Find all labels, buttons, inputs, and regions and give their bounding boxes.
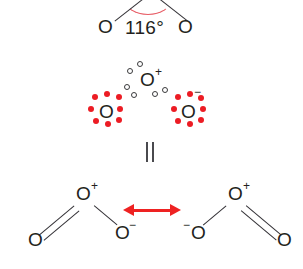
lone-pair-dot	[104, 91, 110, 97]
equivalence-bar	[146, 142, 148, 162]
geometry-left-oxygen: O	[98, 17, 113, 36]
resonance-structure-left: O + O O −	[0, 178, 145, 269]
bond-angle-structure: O 116° O	[0, 0, 303, 46]
lone-pair-dot	[187, 91, 193, 97]
right-structure-central-charge: +	[243, 180, 250, 192]
ozone-resonance-figure: O 116° O O + O O −	[0, 0, 303, 269]
geometry-right-oxygen: O	[178, 17, 193, 36]
lewis-dot-structure: O + O O −	[0, 58, 303, 136]
lone-pair-dot	[175, 118, 181, 124]
resonance-structure-right: O + O − O	[158, 178, 303, 269]
lone-pair-dot	[127, 68, 133, 74]
single-bond-line	[203, 205, 227, 225]
lone-pair-dot	[105, 121, 111, 127]
lone-pair-dot	[131, 92, 137, 98]
lone-pair-dot	[175, 94, 181, 100]
lone-pair-dot	[116, 94, 122, 100]
bond-angle-label: 116°	[125, 17, 164, 39]
equivalence-symbol	[143, 142, 159, 162]
lewis-right-oxygen: O	[181, 102, 196, 121]
left-structure-negative-charge: −	[129, 219, 136, 231]
right-structure-double-bond-oxygen: O	[277, 230, 292, 249]
lone-pair-dot	[117, 106, 123, 112]
lone-pair-dot	[124, 84, 130, 90]
lone-pair-dot	[200, 106, 206, 112]
left-structure-double-bond-oxygen: O	[28, 230, 43, 249]
lone-pair-dot	[92, 94, 98, 100]
left-structure-central-charge: +	[91, 180, 98, 192]
left-structure-central-oxygen: O	[76, 184, 91, 203]
lewis-left-oxygen: O	[99, 102, 114, 121]
lewis-central-oxygen: O	[140, 70, 155, 89]
lone-pair-dot	[162, 87, 168, 93]
right-structure-single-bond-oxygen: O	[191, 223, 206, 242]
double-bond-line	[38, 205, 74, 236]
lone-pair-dot	[152, 91, 158, 97]
lone-pair-dot	[187, 121, 193, 127]
lewis-central-charge: +	[155, 66, 162, 78]
lone-pair-dot	[137, 61, 143, 67]
equivalence-bar	[152, 142, 154, 162]
single-bond-line	[94, 205, 118, 225]
lone-pair-dot	[93, 118, 99, 124]
left-structure-single-bond-oxygen: O	[115, 223, 130, 242]
right-structure-central-oxygen: O	[228, 184, 243, 203]
lone-pair-dot	[198, 117, 204, 123]
lone-pair-dot	[116, 117, 122, 123]
lone-pair-dot	[171, 106, 177, 112]
lone-pair-dot	[88, 106, 94, 112]
right-structure-negative-charge: −	[183, 219, 190, 231]
lone-pair-dot	[198, 95, 204, 101]
